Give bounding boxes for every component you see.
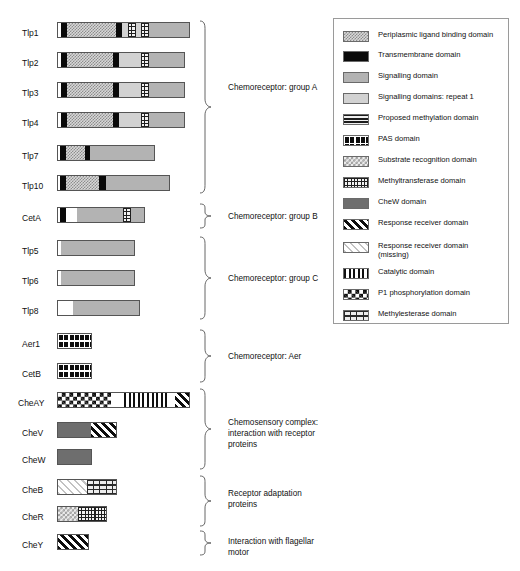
legend-swatch-chew (343, 198, 369, 209)
domain-response-receiver-missing (58, 480, 87, 494)
legend-label-methyltransferase: Methyltransferase domain (378, 176, 465, 185)
protein-bar-cheb (57, 479, 117, 495)
group-note-flagellar: Interaction with flagellar motor (228, 536, 314, 558)
domain-signalling-2 (131, 208, 145, 222)
protein-label-tlp2: Tlp2 (22, 59, 39, 68)
domain-p1-phosphorylation (58, 393, 111, 407)
domain-methyltransferase (141, 53, 149, 67)
domain-methyltransferase (141, 83, 149, 97)
protein-label-chew: CheW (22, 456, 46, 465)
legend-swatch-methylation (343, 114, 369, 125)
domain-transmembrane-2 (99, 176, 106, 190)
protein-label-ceta: CetA (22, 214, 41, 223)
domain-signalling (106, 176, 170, 190)
legend-item-methylesterase: Methylesterase domain (343, 309, 457, 321)
protein-label-tlp3: Tlp3 (22, 89, 39, 98)
bracket-group-aer (198, 329, 212, 383)
domain-linker-gap-2 (167, 393, 175, 407)
legend-swatch-substrate (343, 156, 369, 167)
protein-bar-tlp6 (57, 270, 135, 286)
protein-bar-tlp7 (57, 145, 155, 161)
domain-substrate-recognition (58, 507, 78, 521)
domain-signalling-repeat (119, 83, 141, 97)
bracket-group-complex (198, 388, 212, 470)
legend-label-signalling: Signalling domain (378, 71, 438, 80)
group-note-complex: Chemosensory complex: interaction with r… (228, 417, 318, 450)
legend-item-response-missing: Response receiver domain (missing) (343, 241, 468, 260)
group-note-b: Chemoreceptor: group B (228, 211, 318, 222)
domain-signalling (149, 53, 185, 67)
domain-response-receiver (58, 535, 89, 549)
domain-periplasmic (67, 83, 113, 97)
protein-bar-tlp10 (57, 175, 170, 191)
legend-swatch-methylesterase (343, 310, 369, 321)
legend-item-periplasmic: Periplasmic ligand binding domain (343, 30, 493, 42)
legend-swatch-signalling (343, 72, 369, 83)
domain-response-receiver (175, 393, 190, 407)
protein-label-aer1: Aer1 (22, 340, 40, 349)
legend-label-substrate: Substrate recognition domain (378, 155, 477, 164)
legend-label-periplasmic: Periplasmic ligand binding domain (378, 30, 493, 39)
legend-label-methylation: Proposed methylation domain (378, 113, 478, 122)
protein-bar-tlp2 (57, 52, 185, 68)
legend-item-substrate: Substrate recognition domain (343, 155, 477, 167)
legend-swatch-pas (343, 135, 369, 146)
protein-label-chev: CheV (22, 429, 43, 438)
domain-signalling (149, 83, 185, 97)
group-note-c: Chemoreceptor: group C (228, 273, 318, 284)
protein-label-tlp8: Tlp8 (22, 307, 39, 316)
legend-item-signalling: Signalling domain (343, 71, 438, 83)
protein-bar-tlp8 (57, 300, 140, 316)
legend-item-signalling-repeat: Signalling domains: repeat 1 (343, 92, 474, 104)
domain-signalling (77, 208, 123, 222)
bracket-group-a (198, 20, 212, 194)
protein-label-cheb: CheB (22, 486, 43, 495)
domain-chew (58, 423, 91, 437)
legend-swatch-response-receiver (343, 219, 369, 230)
group-note-adaptation: Receptor adaptation proteins (228, 488, 302, 510)
protein-label-tlp6: Tlp6 (22, 277, 39, 286)
legend-label-pas: PAS domain (378, 134, 420, 143)
protein-bar-tlp5 (57, 240, 135, 256)
domain-linker-gap (111, 393, 124, 407)
legend-swatch-periplasmic (343, 31, 369, 42)
legend-label-catalytic: Catalytic domain (378, 267, 434, 276)
protein-bar-aer1 (57, 333, 92, 349)
domain-methyltransferase (141, 113, 149, 127)
protein-bar-chev (57, 422, 117, 438)
legend-item-catalytic: Catalytic domain (343, 267, 434, 279)
bracket-group-c (198, 236, 212, 320)
bracket-group-adaptation (198, 475, 212, 527)
domain-response-receiver (91, 423, 117, 437)
protein-label-cher: CheR (22, 513, 44, 522)
domain-signalling (149, 113, 185, 127)
domain-methyltransferase (78, 507, 107, 521)
group-note-a: Chemoreceptor: group A (228, 82, 317, 93)
protein-label-tlp4: Tlp4 (22, 119, 39, 128)
domain-chew (58, 450, 92, 464)
domain-signalling-repeat (119, 113, 141, 127)
legend-swatch-catalytic (343, 268, 369, 279)
legend-swatch-p1 (343, 289, 369, 300)
legend-label-response-receiver: Response receiver domain (378, 218, 468, 227)
domain-signalling (61, 241, 135, 255)
domain-periplasmic (67, 53, 113, 67)
domain-signalling (149, 23, 190, 37)
legend-item-pas: PAS domain (343, 134, 420, 146)
legend-item-response-receiver: Response receiver domain (343, 218, 468, 230)
group-note-aer: Chemoreceptor: Aer (228, 351, 301, 362)
legend-label-chew: CheW domain (378, 197, 426, 206)
protein-bar-cher (57, 506, 107, 522)
protein-label-tlp10: Tlp10 (22, 182, 43, 191)
protein-label-chey: CheY (22, 541, 43, 550)
domain-methyltransferase (128, 23, 136, 37)
legend-swatch-methyltransferase (343, 177, 369, 188)
domain-periplasmic-gap (66, 208, 77, 222)
legend-box: Periplasmic ligand binding domain Transm… (333, 18, 509, 324)
domain-pas (58, 364, 92, 378)
bracket-group-b (198, 203, 212, 229)
legend-label-signalling-repeat: Signalling domains: repeat 1 (378, 92, 474, 101)
bracket-group-flagellar (198, 530, 212, 556)
legend-swatch-transmembrane (343, 51, 369, 62)
domain-signalling (61, 271, 135, 285)
